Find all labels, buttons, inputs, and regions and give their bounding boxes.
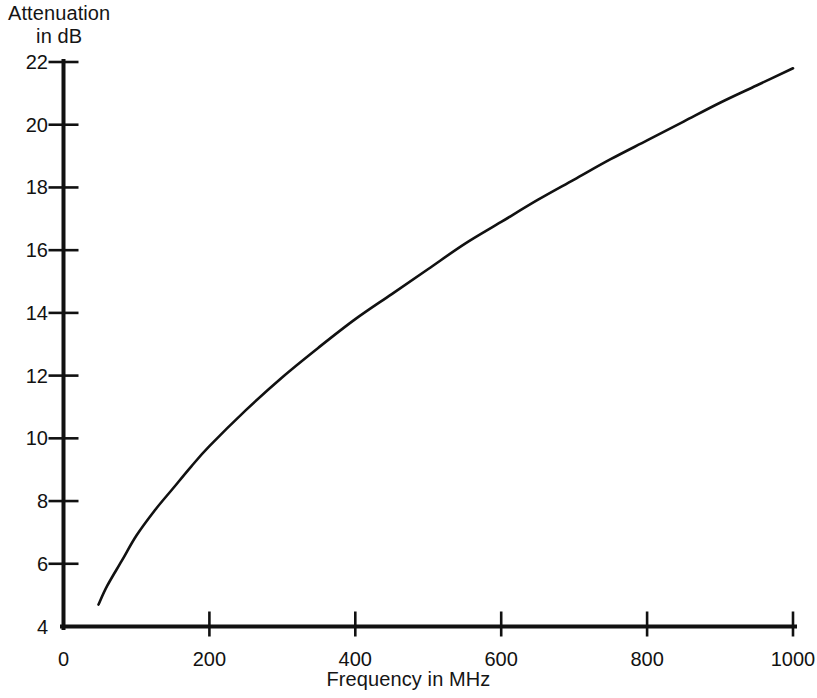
x-tick-label: 1000 bbox=[753, 649, 817, 669]
y-tick-label: 18 bbox=[0, 177, 48, 197]
y-tick-label: 8 bbox=[0, 491, 48, 511]
attenuation-curve bbox=[99, 68, 793, 604]
x-tick-marks bbox=[209, 612, 793, 637]
y-tick-label: 10 bbox=[0, 428, 48, 448]
y-tick-label: 12 bbox=[0, 366, 48, 386]
y-tick-label: 16 bbox=[0, 240, 48, 260]
y-tick-label: 22 bbox=[0, 52, 48, 72]
y-tick-label: 14 bbox=[0, 303, 48, 323]
x-tick-label: 400 bbox=[315, 649, 395, 669]
x-tick-label: 800 bbox=[607, 649, 687, 669]
x-tick-label: 600 bbox=[461, 649, 541, 669]
axis-lines bbox=[62, 61, 795, 628]
plot-area bbox=[0, 0, 817, 698]
x-tick-label: 200 bbox=[169, 649, 249, 669]
attenuation-frequency-chart: Attenuationin dB Frequency in MHz 468101… bbox=[0, 0, 817, 698]
y-tick-label: 20 bbox=[0, 115, 48, 135]
y-tick-label: 4 bbox=[0, 617, 48, 637]
y-tick-label: 6 bbox=[0, 554, 48, 574]
x-tick-label: 0 bbox=[24, 649, 104, 669]
